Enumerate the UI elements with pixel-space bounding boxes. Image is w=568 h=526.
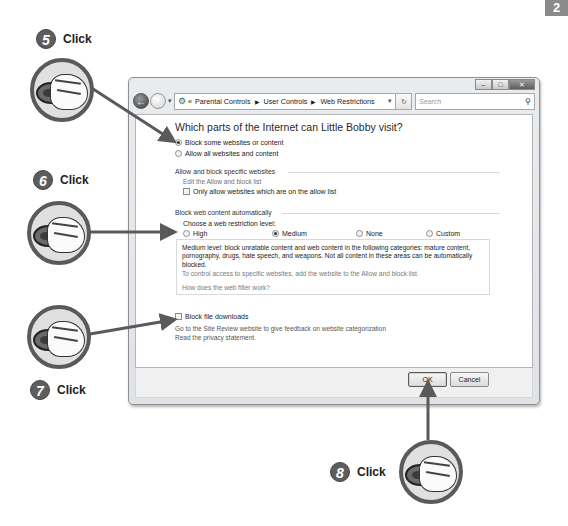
step-label: Click [63, 32, 92, 46]
arrow-step-5 [90, 87, 172, 140]
step-number-badge: 5 [36, 29, 56, 49]
callout-step-8: 8 Click [330, 462, 386, 482]
step-number-badge: 6 [33, 170, 53, 190]
step-label: Click [57, 383, 86, 397]
arrow-step-7 [90, 320, 172, 334]
step-number-badge: 7 [30, 380, 50, 400]
step-label: Click [357, 465, 386, 479]
callout-step-5: 5 Click [36, 29, 92, 49]
mouse-click-icon [399, 440, 463, 504]
callout-step-7: 7 Click [30, 380, 86, 400]
step-number-badge: 8 [330, 462, 350, 482]
callout-step-6: 6 Click [33, 170, 89, 190]
step-label: Click [60, 173, 89, 187]
mouse-click-icon [27, 201, 91, 265]
mouse-click-icon [27, 305, 91, 369]
mouse-click-icon [30, 58, 94, 122]
